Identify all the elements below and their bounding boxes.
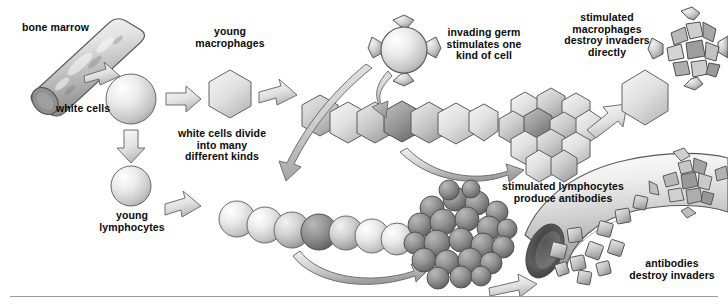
arrow-lymphocyte-to-chain [165,191,201,217]
invading-germ [368,15,441,86]
destroyed-germ [648,7,728,90]
diagram-artwork [0,0,728,307]
immune-response-diagram: bone marrow white cells young macrophage… [0,0,728,307]
arrow-white-cell-to-macrophage [166,86,201,112]
arrow-macrophage-to-chain [259,79,297,105]
arrow-white-cell-to-lymphocyte [117,130,145,163]
young-macrophage-hexagon [209,70,251,118]
arrow-macrophage-chain-to-cluster [400,148,524,182]
arrow-lymphocyte-chain-to-cluster [293,251,430,284]
lymphocyte-chain [219,201,413,255]
arrow-lymphocyte-cluster-to-vessel [489,274,537,297]
young-lymphocyte-sphere [111,166,151,206]
white-cell-sphere [106,74,156,124]
stimulated-macrophage-hexagon [622,70,668,125]
